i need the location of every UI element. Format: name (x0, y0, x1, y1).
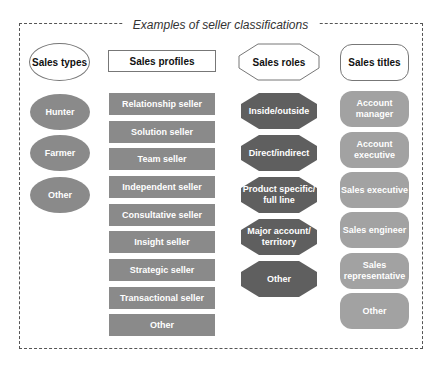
header-sales-profiles: Sales profiles (108, 50, 216, 72)
diagram-title: Examples of seller classifications (0, 15, 441, 33)
sales-profile-item: Consultative seller (109, 204, 215, 226)
sales-role-item: Major account/ territory (241, 219, 317, 255)
sales-type-item: Hunter (30, 94, 90, 130)
sales-title-item: Sales engineer (340, 212, 409, 248)
header-sales-roles: Sales roles (238, 43, 320, 81)
sales-title-item: Sales executive (340, 172, 409, 208)
sales-profile-item: Independent seller (109, 176, 215, 198)
sales-profile-item: Insight seller (109, 231, 215, 253)
sales-role-item: Product specific/ full line (241, 177, 317, 213)
sales-profile-item: Team seller (109, 148, 215, 170)
sales-title-item: Other (340, 293, 409, 329)
sales-type-item: Other (30, 177, 90, 213)
sales-profile-item: Transactional seller (109, 287, 215, 309)
sales-title-item: Account executive (340, 132, 409, 168)
header-sales-types: Sales types (29, 43, 90, 81)
header-sales-titles: Sales titles (340, 44, 409, 81)
sales-title-item: Account manager (340, 91, 409, 127)
sales-profile-item: Solution seller (109, 121, 215, 143)
sales-profile-item: Relationship seller (109, 93, 215, 115)
sales-profile-item: Strategic seller (109, 259, 215, 281)
sales-role-item: Direct/indirect (241, 135, 317, 171)
sales-role-item: Inside/outside (241, 93, 317, 129)
sales-type-item: Farmer (30, 135, 90, 171)
sales-title-item: Sales representative (340, 253, 409, 289)
sales-role-item: Other (241, 261, 317, 297)
sales-profile-item: Other (109, 314, 215, 336)
